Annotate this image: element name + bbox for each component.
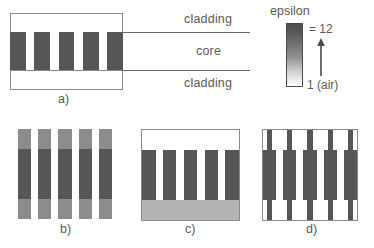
panel-b-core-rod — [99, 149, 112, 199]
panel-d-wide-rod-segment — [283, 150, 296, 200]
panel-a-rod — [59, 32, 75, 71]
label-core: core — [196, 44, 221, 58]
panel-a-cladding-top-region — [10, 13, 123, 33]
label-cladding-bottom: cladding — [184, 76, 232, 90]
panel-c-rod — [225, 150, 239, 200]
epsilon-colorbar — [286, 23, 303, 87]
panel-b-uniform-rods-diagram — [18, 129, 112, 219]
panel-a-rod — [34, 32, 50, 71]
panel-d-wide-rod-segment — [324, 150, 337, 200]
panel-c-rod — [205, 150, 219, 200]
panel-a-letter: a) — [58, 92, 69, 106]
panel-d-wide-rod-segment — [344, 150, 357, 200]
panel-a-waveguide-diagram — [10, 13, 123, 90]
panel-a-rod — [83, 32, 99, 71]
panel-c-substrate-band — [142, 200, 239, 220]
panel-b-core-rod — [79, 149, 92, 199]
legend-max-value: = 12 — [309, 22, 333, 36]
panel-c-substrate-rods-diagram — [141, 129, 240, 221]
core-top-boundary-line — [122, 32, 250, 33]
figure-canvas: cladding core cladding a) epsilon = 12 1… — [0, 0, 374, 248]
legend-min-value: 1 (air) — [307, 78, 338, 92]
panel-d-letter: d) — [306, 222, 317, 236]
panel-b-letter: b) — [60, 222, 71, 236]
epsilon-legend: epsilon = 12 1 (air) — [262, 4, 372, 96]
panel-c-rod — [184, 150, 198, 200]
panel-a-rod — [10, 32, 26, 71]
legend-title: epsilon — [270, 4, 310, 18]
panel-c-letter: c) — [185, 222, 195, 236]
panel-c-rod — [142, 150, 156, 200]
panel-b-core-rod — [58, 149, 71, 199]
core-bottom-boundary-line — [122, 70, 250, 71]
panel-b-core-rod — [38, 149, 51, 199]
panel-b-core-rod — [18, 149, 31, 199]
panel-d-widened-rods-diagram — [262, 129, 358, 221]
panel-c-rod — [163, 150, 177, 200]
panel-d-wide-rod-segment — [303, 150, 316, 200]
panel-d-wide-rod-segment — [263, 150, 276, 200]
label-cladding-top: cladding — [184, 12, 232, 26]
legend-up-arrow-icon — [316, 38, 326, 76]
panel-a-cladding-bottom-region — [10, 70, 123, 90]
panel-a-rod — [107, 32, 123, 71]
panel-a-core-region — [10, 32, 123, 71]
